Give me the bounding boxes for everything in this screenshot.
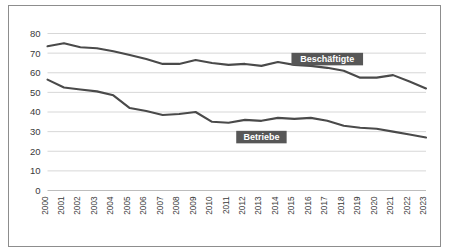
x-tick-label: 2015 bbox=[287, 196, 296, 215]
y-axis-tick-labels: 01020304050607080 bbox=[30, 28, 41, 196]
y-tick-label: 50 bbox=[30, 87, 41, 98]
y-tick-label: 20 bbox=[30, 146, 41, 157]
line-chart: 01020304050607080 2000200120022003200420… bbox=[0, 0, 449, 252]
series-line-1 bbox=[48, 80, 427, 138]
x-tick-label: 2008 bbox=[172, 196, 181, 215]
x-tick-label: 2023 bbox=[419, 196, 428, 215]
series-annotations-group: BeschäftigteBetriebe bbox=[236, 53, 363, 143]
x-tick-label: 2003 bbox=[90, 196, 99, 215]
chart-screenshot: 01020304050607080 2000200120022003200420… bbox=[0, 0, 449, 252]
x-tick-label: 2010 bbox=[205, 196, 214, 215]
x-tick-label: 2021 bbox=[386, 196, 395, 215]
x-tick-label: 2011 bbox=[222, 196, 231, 214]
x-tick-label: 2019 bbox=[353, 196, 362, 215]
x-tick-label: 2009 bbox=[189, 196, 198, 215]
x-tick-label: 2007 bbox=[156, 196, 165, 215]
x-tick-label: 2000 bbox=[41, 196, 50, 215]
x-tick-label: 2014 bbox=[271, 196, 280, 215]
x-tick-label: 2020 bbox=[370, 196, 379, 215]
x-tick-label: 2006 bbox=[139, 196, 148, 215]
y-tick-label: 70 bbox=[30, 48, 41, 59]
x-tick-label: 2016 bbox=[304, 196, 313, 215]
series-lines-group bbox=[48, 43, 427, 137]
x-tick-label: 2004 bbox=[106, 196, 115, 215]
y-tick-label: 80 bbox=[30, 28, 41, 39]
series-label-text: Betriebe bbox=[243, 132, 279, 142]
y-tick-label: 40 bbox=[30, 106, 41, 117]
x-tick-label: 2018 bbox=[337, 196, 346, 215]
series-label-text: Beschäftigte bbox=[300, 54, 354, 64]
x-tick-label: 2002 bbox=[73, 196, 82, 215]
x-axis-tick-labels: 2000200120022003200420052006200720082009… bbox=[41, 196, 429, 215]
x-tick-label: 2017 bbox=[320, 196, 329, 215]
y-tick-label: 10 bbox=[30, 165, 41, 176]
y-tick-label: 30 bbox=[30, 126, 41, 137]
x-tick-label: 2012 bbox=[238, 196, 247, 215]
gridlines-group bbox=[48, 34, 427, 191]
series-line-0 bbox=[48, 43, 427, 88]
x-tick-label: 2001 bbox=[57, 196, 66, 215]
y-tick-label: 60 bbox=[30, 67, 41, 78]
x-tick-label: 2013 bbox=[254, 196, 263, 215]
x-tick-label: 2022 bbox=[403, 196, 412, 215]
x-tick-label: 2005 bbox=[123, 196, 132, 215]
y-tick-label: 0 bbox=[35, 185, 40, 196]
